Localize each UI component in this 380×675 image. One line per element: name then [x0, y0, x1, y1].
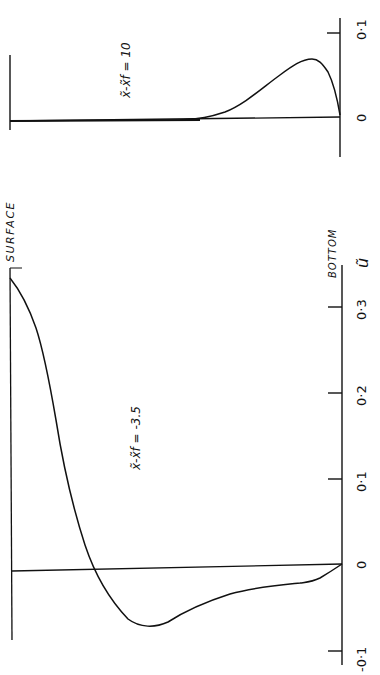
surface-label: SURFACE: [4, 201, 17, 262]
top-profile-curve: [180, 59, 340, 120]
bottom-profile-curve: [10, 278, 342, 626]
bottom-annotation: x̃-x̃f = -3.5: [129, 406, 143, 471]
top-tick-label-0: 0: [354, 114, 369, 122]
bottom-tick-label-0.2: 0·2: [354, 385, 369, 406]
bottom-panel: 0·3 0·2 0·1 0 -0·1 x̃-x̃f = -3.5 SURFACE…: [4, 201, 372, 672]
bottom-label: BOTTOM: [327, 229, 338, 278]
top-panel: 0·1 0 x̃-x̃f = 10: [10, 18, 369, 157]
top-annotation: x̃-x̃f = 10: [119, 42, 133, 99]
chart-canvas: 0·1 0 x̃-x̃f = 10 0·3 0·2 0·1 0 -0·1 x̃-…: [0, 0, 380, 675]
bottom-tick-label-0: 0: [354, 561, 369, 569]
bottom-zero-line: [12, 564, 342, 571]
bottom-tick-label-minus0.1: -0·1: [354, 647, 369, 672]
bottom-tick-label-0.3: 0·3: [354, 299, 369, 320]
bottom-tick-label-0.1: 0·1: [354, 471, 369, 492]
top-tick-label-0.1: 0·1: [354, 19, 369, 40]
u-axis-symbol: ũ: [353, 258, 372, 268]
top-zero-line-thick: [10, 120, 200, 121]
bottom-surface-line: [10, 268, 12, 640]
